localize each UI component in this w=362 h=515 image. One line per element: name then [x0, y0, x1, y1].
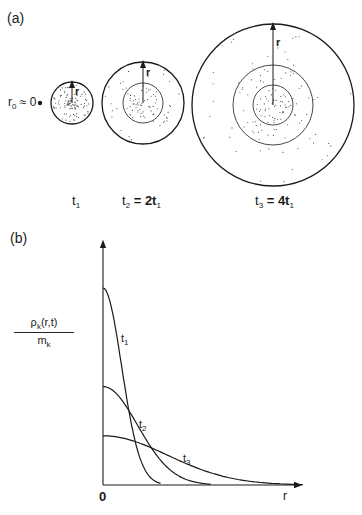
radius-label-t2: r: [146, 66, 150, 78]
panel-a-label: (a): [7, 10, 24, 26]
time-label-t2: t2 = 2t1: [122, 193, 161, 210]
radius-label-t3: r: [276, 36, 280, 48]
circle-t3: [192, 24, 354, 186]
radius-label-t1: r: [75, 85, 79, 97]
circle-t2: [102, 62, 184, 144]
time-label-t3: t3 = 4t1: [255, 193, 294, 210]
y-axis-label: ρk(r,t) mk: [14, 316, 74, 349]
curve-t3: [103, 436, 303, 485]
curve-label-t1: t1: [121, 332, 129, 347]
curve-t2: [103, 387, 211, 485]
curve-label-t3: t3: [183, 452, 191, 467]
x-axis-label: r: [283, 489, 287, 503]
panel-b-label: (b): [10, 230, 27, 246]
circle-t1: [51, 82, 93, 124]
diagram-canvas: [0, 0, 362, 515]
origin-zero: 0: [99, 489, 106, 504]
curve-t1: [103, 288, 161, 483]
time-label-t1: t1: [72, 193, 80, 210]
curve-label-t2: t2: [139, 418, 147, 433]
origin-dot: [38, 101, 42, 105]
origin-label: r0 ≈ 0: [8, 95, 36, 111]
